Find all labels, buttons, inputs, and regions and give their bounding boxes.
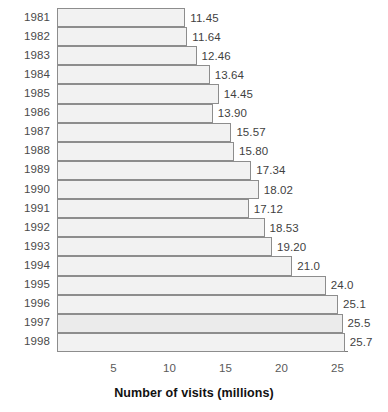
bar-value-label: 13.64 (215, 69, 244, 81)
bar-value-label: 21.0 (297, 260, 320, 272)
bar (57, 84, 219, 103)
bar-value-label: 18.53 (270, 222, 299, 234)
bar (57, 256, 292, 275)
bar (57, 8, 185, 27)
x-tick-label: 15 (219, 362, 232, 374)
bar (57, 65, 210, 84)
bar-value-label: 17.34 (256, 164, 285, 176)
year-label: 1993 (2, 240, 50, 252)
bar-row: 17.34 (57, 161, 348, 180)
bar-row: 13.64 (57, 65, 348, 84)
x-axis-tick-labels: 510152025 (57, 362, 348, 380)
bar-row: 25.7 (57, 333, 348, 352)
year-label: 1985 (2, 87, 50, 99)
bar (57, 161, 251, 180)
year-label: 1988 (2, 144, 50, 156)
year-label: 1983 (2, 49, 50, 61)
bar-row: 12.46 (57, 46, 348, 65)
bar (57, 142, 234, 161)
bar (57, 180, 259, 199)
year-label: 1994 (2, 259, 50, 271)
bar (57, 276, 326, 295)
bar-value-label: 25.5 (348, 317, 371, 329)
bar (57, 314, 343, 333)
bar-value-label: 11.64 (192, 31, 220, 43)
year-label: 1982 (2, 30, 50, 42)
year-label: 1997 (2, 316, 50, 328)
bar-value-label: 12.46 (202, 50, 231, 62)
bar-row: 17.12 (57, 199, 348, 218)
bar-value-label: 18.02 (264, 184, 293, 196)
bar-value-label: 15.80 (239, 145, 268, 157)
bar-row: 19.20 (57, 237, 348, 256)
year-label: 1987 (2, 125, 50, 137)
x-axis-title: Number of visits (millions) (0, 386, 388, 400)
bar-value-label: 11.45 (190, 12, 218, 24)
bar-value-label: 25.1 (343, 298, 366, 310)
bar-row: 18.53 (57, 218, 348, 237)
year-axis-labels: 1981198219831984198519861987198819891990… (0, 8, 50, 352)
year-label: 1995 (2, 278, 50, 290)
bar-row: 14.45 (57, 84, 348, 103)
bar-value-label: 25.7 (350, 336, 373, 348)
bar-row: 15.80 (57, 142, 348, 161)
bar-value-label: 24.0 (331, 279, 354, 291)
bar-row: 21.0 (57, 256, 348, 275)
year-label: 1992 (2, 221, 50, 233)
bar-row: 15.57 (57, 123, 348, 142)
year-label: 1996 (2, 297, 50, 309)
bar-value-label: 15.57 (236, 126, 265, 138)
year-label: 1984 (2, 68, 50, 80)
bar-row: 25.5 (57, 314, 348, 333)
year-label: 1981 (2, 11, 50, 23)
x-tick-label: 25 (331, 362, 344, 374)
bar (57, 237, 272, 256)
bar-row: 25.1 (57, 295, 348, 314)
bar-row: 24.0 (57, 276, 348, 295)
bar-row: 18.02 (57, 180, 348, 199)
x-tick-label: 20 (275, 362, 288, 374)
bar-row: 11.64 (57, 27, 348, 46)
bar (57, 218, 265, 237)
bar-value-label: 19.20 (277, 241, 306, 253)
year-label: 1998 (2, 335, 50, 347)
x-tick-label: 10 (163, 362, 176, 374)
plot-area: 11.4511.6412.4613.6414.4513.9015.5715.80… (57, 8, 348, 352)
year-label: 1991 (2, 202, 50, 214)
bar-row: 13.90 (57, 104, 348, 123)
year-label: 1990 (2, 183, 50, 195)
year-label: 1986 (2, 106, 50, 118)
bar-value-label: 13.90 (218, 107, 247, 119)
year-label: 1989 (2, 163, 50, 175)
bar (57, 46, 197, 65)
bar (57, 333, 345, 352)
bar-value-label: 17.12 (254, 203, 283, 215)
bar-value-label: 14.45 (224, 88, 253, 100)
bar (57, 27, 187, 46)
bar (57, 199, 249, 218)
bar (57, 104, 213, 123)
bar (57, 123, 231, 142)
horizontal-bar-chart: 1981198219831984198519861987198819891990… (0, 0, 388, 412)
bar (57, 295, 338, 314)
x-tick-label: 5 (110, 362, 117, 374)
bar-row: 11.45 (57, 8, 348, 27)
